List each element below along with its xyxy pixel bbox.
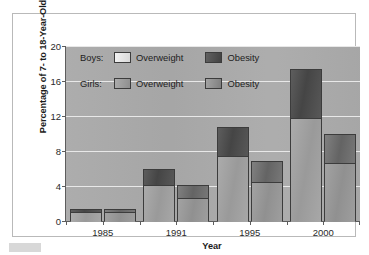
legend-swatch-boys-obesity-icon — [205, 52, 222, 63]
y-tick-label-12: 12 — [50, 111, 61, 122]
x-tick-mark-mid-1 — [176, 221, 177, 225]
x-tick-mark-0 — [66, 221, 67, 225]
legend-entry-boys-overweight[interactable]: Overweight — [114, 52, 183, 63]
bar-segment-overweight-girls-1991 — [178, 198, 208, 222]
bar-segment-overweight-boys-2000 — [291, 118, 321, 222]
bar-girls-1991 — [177, 185, 209, 221]
bar-segment-overweight-girls-1985 — [105, 212, 135, 223]
legend-entry-boys-obesity[interactable]: Obesity — [205, 52, 259, 63]
y-tick-mark-8 — [62, 151, 66, 152]
x-tick-label-2000: 2000 — [313, 227, 334, 238]
y-tick-label-0: 0 — [56, 216, 61, 227]
figure-frame: Percentage of 7- to 18-Year-Olds 0481216… — [12, 13, 356, 237]
x-tick-label-1991: 1991 — [166, 227, 187, 238]
legend-row-girls: Girls:OverweightObesity — [80, 78, 259, 89]
legend-label-girls-obesity: Obesity — [227, 78, 259, 89]
bar-boys-1985 — [70, 209, 102, 221]
legend-entry-girls-overweight[interactable]: Overweight — [114, 78, 183, 89]
bar-girls-1995 — [251, 161, 283, 221]
y-tick-mark-20 — [62, 46, 66, 47]
legend-swatch-girls-overweight-icon — [114, 78, 131, 89]
x-tick-mark-mid-3 — [323, 221, 324, 225]
bar-boys-1995 — [217, 127, 249, 221]
y-tick-mark-4 — [62, 186, 66, 187]
y-tick-label-20: 20 — [50, 41, 61, 52]
bar-segment-obesity-boys-2000 — [291, 70, 321, 118]
legend-label-boys-overweight: Overweight — [136, 52, 183, 63]
bar-segment-overweight-girls-1995 — [252, 182, 282, 222]
bar-segment-obesity-boys-1995 — [218, 128, 248, 155]
bar-segment-overweight-girls-2000 — [325, 163, 355, 223]
gridline-y-20 — [66, 46, 360, 47]
legend-label-girls-overweight: Overweight — [136, 78, 183, 89]
bar-boys-2000 — [290, 69, 322, 221]
legend-group-label-girls: Girls: — [80, 78, 114, 89]
bar-segment-obesity-girls-2000 — [325, 135, 355, 162]
x-axis-title: Year — [65, 241, 359, 251]
x-tick-label-1995: 1995 — [239, 227, 260, 238]
legend-swatch-girls-obesity-icon — [205, 78, 222, 89]
bar-segment-overweight-boys-1985 — [71, 212, 101, 223]
legend-group-label-boys: Boys: — [80, 52, 114, 63]
bar-segment-obesity-girls-1991 — [178, 186, 208, 198]
bar-girls-1985 — [104, 209, 136, 221]
legend-label-boys-obesity: Obesity — [227, 52, 259, 63]
y-tick-label-4: 4 — [56, 181, 61, 192]
corner-artifact — [9, 243, 41, 252]
y-axis-title: Percentage of 7- to 18-Year-Olds — [38, 0, 48, 154]
bar-boys-1991 — [143, 169, 175, 221]
y-tick-label-16: 16 — [50, 76, 61, 87]
bar-segment-overweight-boys-1991 — [144, 185, 174, 222]
x-tick-mark-3 — [287, 221, 288, 225]
y-tick-label-8: 8 — [56, 146, 61, 157]
legend-swatch-boys-overweight-icon — [114, 52, 131, 63]
legend-row-boys: Boys:OverweightObesity — [80, 52, 259, 63]
x-tick-mark-end — [359, 221, 360, 225]
y-tick-mark-16 — [62, 81, 66, 82]
x-tick-label-1985: 1985 — [92, 227, 113, 238]
bar-segment-obesity-girls-1995 — [252, 162, 282, 182]
x-tick-mark-2 — [213, 221, 214, 225]
plot-area: 0481216201985199119952000Boys:Overweight… — [65, 46, 360, 222]
x-tick-mark-mid-0 — [103, 221, 104, 225]
legend-entry-girls-obesity[interactable]: Obesity — [205, 78, 259, 89]
x-tick-mark-1 — [140, 221, 141, 225]
x-tick-mark-mid-2 — [250, 221, 251, 225]
y-tick-mark-12 — [62, 116, 66, 117]
bar-girls-2000 — [324, 134, 356, 221]
bar-segment-obesity-boys-1991 — [144, 170, 174, 185]
bar-segment-overweight-boys-1995 — [218, 156, 248, 223]
